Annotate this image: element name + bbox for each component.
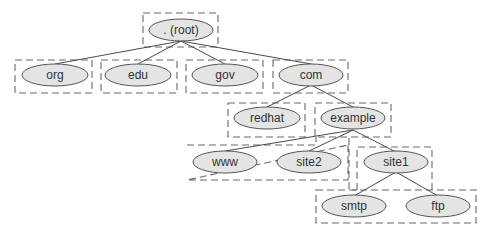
node-edu: edu <box>105 64 171 86</box>
node-root: . (root) <box>149 19 213 41</box>
dns-hierarchy-diagram: . (root) org edu gov com redhat example … <box>0 0 489 237</box>
node-smtp: smtp <box>322 195 386 217</box>
node-site2-label: site2 <box>296 155 322 169</box>
node-com-label: com <box>300 68 323 82</box>
edge-com-example <box>311 85 353 107</box>
node-ftp-label: ftp <box>431 199 445 213</box>
node-example: example <box>321 107 385 129</box>
node-site1: site1 <box>364 151 428 173</box>
node-www-label: www <box>211 155 238 169</box>
node-root-label: . (root) <box>163 23 198 37</box>
node-gov: gov <box>192 64 258 86</box>
node-site1-label: site1 <box>383 155 409 169</box>
node-com: com <box>279 64 343 86</box>
node-redhat-label: redhat <box>250 111 285 125</box>
edge-com-redhat <box>267 85 311 107</box>
node-www: www <box>193 151 257 173</box>
node-example-label: example <box>330 111 376 125</box>
edge-site1-smtp <box>354 172 396 196</box>
node-gov-label: gov <box>215 68 234 82</box>
edge-example-site1 <box>353 130 396 152</box>
node-ftp: ftp <box>406 195 470 217</box>
node-smtp-label: smtp <box>341 199 367 213</box>
node-edu-label: edu <box>128 68 148 82</box>
node-site2: site2 <box>277 151 341 173</box>
node-org: org <box>22 64 88 86</box>
node-org-label: org <box>46 68 63 82</box>
node-redhat: redhat <box>234 107 300 129</box>
